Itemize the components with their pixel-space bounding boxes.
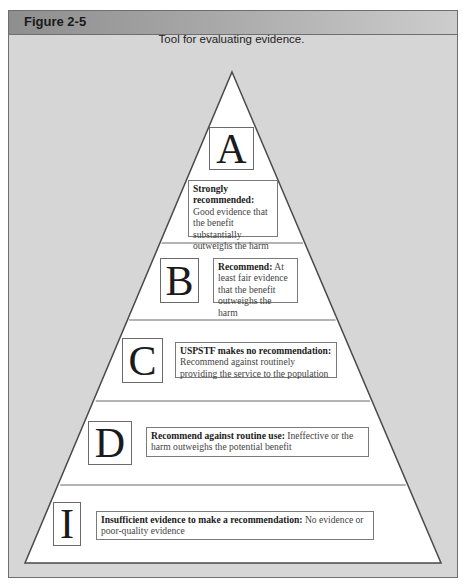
grade-b-description: Recommend: At least fair evidence that t…: [213, 258, 298, 303]
grade-a-letter: A: [216, 128, 246, 170]
grade-d-title: Recommend against routine use:: [151, 430, 285, 441]
grade-c-description: USPSTF makes no recommendation: Recommen…: [175, 342, 337, 378]
grade-d-box: D: [88, 421, 132, 465]
grade-i-description: Insufficient evidence to make a recommen…: [96, 511, 374, 540]
grade-c-title: USPSTF makes no recommendation:: [180, 345, 331, 356]
grade-a-text: Good evidence that the benefit substanti…: [193, 206, 269, 251]
grade-b-letter: B: [165, 260, 193, 302]
grade-i-letter: I: [60, 503, 74, 545]
grade-c-letter: C: [128, 340, 156, 382]
grade-d-letter: D: [95, 422, 125, 464]
grade-d-description: Recommend against routine use: Ineffecti…: [146, 427, 369, 457]
grade-b-title: Recommend:: [218, 261, 272, 272]
grade-a-description: Strongly recommended: Good evidence that…: [188, 180, 278, 237]
grade-a-box: A: [209, 127, 254, 170]
grade-b-box: B: [160, 258, 199, 303]
grade-i-box: I: [53, 502, 81, 546]
grade-c-text: Recommend against routinely providing th…: [180, 356, 328, 378]
grade-c-box: C: [122, 338, 163, 383]
grade-a-title: Strongly recommended:: [193, 183, 254, 205]
grade-i-title: Insufficient evidence to make a recommen…: [101, 514, 303, 525]
